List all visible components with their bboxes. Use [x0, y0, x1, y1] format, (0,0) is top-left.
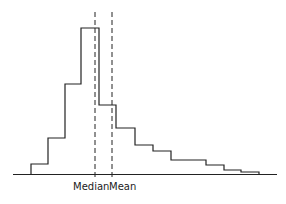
mean-label: Mean	[109, 181, 136, 192]
histogram-chart: Median Mean	[0, 0, 286, 204]
median-label: Median	[73, 181, 109, 192]
histogram-outline	[31, 28, 259, 174]
